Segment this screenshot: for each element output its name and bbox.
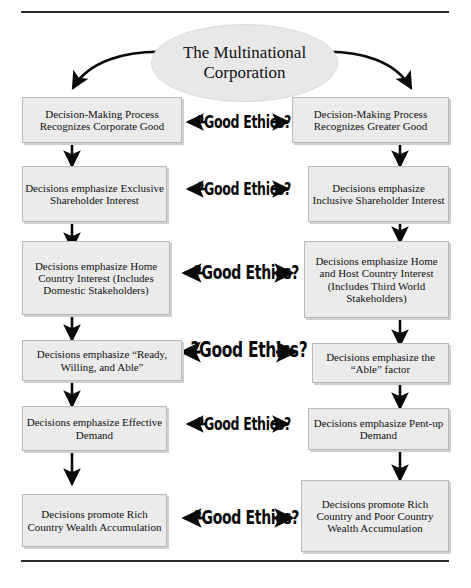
node-row-2-right[interactable]: Decisions emphasize Inclusive Shareholde…: [308, 166, 449, 222]
node-row-6-right-label: Decisions promote Rich Country and Poor …: [302, 498, 448, 535]
node-row-5-left-label: Decisions emphasize Effective Demand: [23, 416, 166, 441]
node-row-3-right[interactable]: Decisions emphasize Home and Host Countr…: [304, 241, 449, 318]
multinational-corporation-node[interactable]: The Multinational Corporation: [151, 24, 338, 102]
node-row-1-right-label: Decision-Making Process Recognizes Great…: [293, 108, 448, 133]
node-row-6-left-label: Decisions promote Rich Country Wealth Ac…: [23, 508, 166, 533]
diagram-canvas: The Multinational Corporation Decision-M…: [0, 0, 471, 588]
node-row-6-right[interactable]: Decisions promote Rich Country and Poor …: [301, 480, 449, 552]
node-row-3-right-label: Decisions emphasize Home and Host Countr…: [305, 255, 448, 304]
node-row-3-left[interactable]: Decisions emphasize Home Country Interes…: [22, 241, 170, 315]
node-row-5-right-label: Decisions emphasize Pent-up Demand: [309, 417, 448, 442]
ethics-label-row-3: ?Good Ethics?: [194, 261, 283, 283]
ethics-label-row-2: ?Good Ethics?: [197, 179, 279, 199]
node-row-5-right[interactable]: Decisions emphasize Pent-up Demand: [308, 408, 449, 450]
node-row-1-left-label: Decision-Making Process Recognizes Corpo…: [23, 108, 181, 133]
ethics-label-row-6: ?Good Ethics?: [194, 506, 283, 528]
node-row-6-left[interactable]: Decisions promote Rich Country Wealth Ac…: [22, 494, 167, 547]
ethics-label-row-5: ?Good Ethics?: [197, 414, 279, 434]
ethics-label-row-1: ?Good Ethics?: [197, 112, 279, 132]
node-row-2-left[interactable]: Decisions emphasize Exclusive Shareholde…: [22, 166, 167, 222]
node-row-4-right[interactable]: Decisions emphasize the “Able” factor: [312, 343, 449, 383]
node-row-3-left-label: Decisions emphasize Home Country Interes…: [23, 260, 169, 297]
node-row-2-left-label: Decisions emphasize Exclusive Shareholde…: [23, 182, 166, 207]
node-row-4-left[interactable]: Decisions emphasize “Ready, Willing, and…: [22, 340, 182, 381]
node-row-1-left[interactable]: Decision-Making Process Recognizes Corpo…: [22, 97, 182, 143]
ethics-label-row-4: ?Good Ethics?: [190, 338, 285, 362]
node-row-4-left-label: Decisions emphasize “Ready, Willing, and…: [23, 348, 181, 373]
node-row-5-left[interactable]: Decisions emphasize Effective Demand: [22, 406, 167, 451]
node-row-2-right-label: Decisions emphasize Inclusive Shareholde…: [309, 182, 448, 207]
node-row-4-right-label: Decisions emphasize the “Able” factor: [313, 351, 448, 376]
node-row-1-right[interactable]: Decision-Making Process Recognizes Great…: [292, 97, 449, 143]
multinational-corporation-label: The Multinational Corporation: [152, 43, 337, 82]
